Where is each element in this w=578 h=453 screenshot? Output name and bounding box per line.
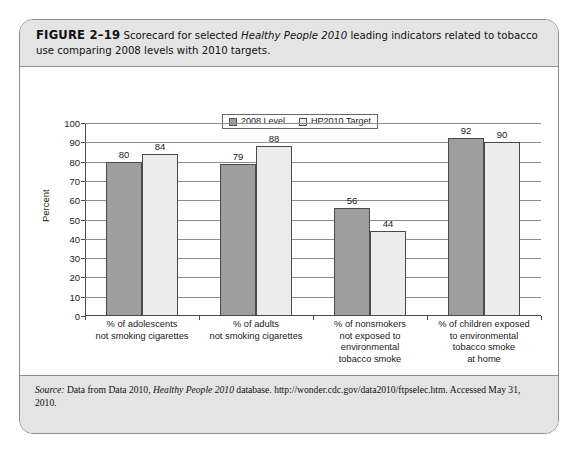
bar-value-label: 56 [334, 195, 370, 206]
bar-value-label: 44 [370, 218, 406, 229]
y-tick-label: 60 [36, 195, 80, 206]
figure-number: FIGURE 2–19 [36, 28, 120, 42]
bar-1-2 [370, 231, 406, 316]
category-label-line: not smoking cigarettes [199, 331, 313, 343]
y-tick-label: 10 [36, 291, 80, 302]
bar-1-0 [142, 154, 178, 316]
category-label-2: % of nonsmokersnot exposed toenvironment… [313, 319, 427, 365]
category-tick [541, 316, 542, 320]
bar-value-label: 80 [106, 149, 142, 160]
figure-caption: FIGURE 2–19 Scorecard for selected Healt… [36, 28, 542, 58]
figure-source: Source: Data from Data 2010, Healthy Peo… [35, 383, 543, 409]
category-label-line: not exposed to [313, 331, 427, 343]
category-label-line: not smoking cigarettes [85, 331, 199, 343]
bars-layer: 8079569284884490 [85, 123, 541, 316]
bar-0-0 [106, 162, 142, 316]
y-tick-label: 80 [36, 156, 80, 167]
source-part1: Data from Data 2010, [64, 384, 152, 395]
y-tick-label: 70 [36, 175, 80, 186]
category-label-line: tobacco smoke [313, 354, 427, 366]
category-label-line: % of children exposed [427, 319, 541, 331]
figure-caption-band: FIGURE 2–19 Scorecard for selected Healt… [20, 20, 558, 67]
y-tick-label: 90 [36, 137, 80, 148]
category-label-line: % of adolescents [85, 319, 199, 331]
category-label-line: % of nonsmokers [313, 319, 427, 331]
bar-0-1 [220, 164, 256, 316]
category-label-line: environmental [313, 342, 427, 354]
category-label-1: % of adultsnot smoking cigarettes [199, 319, 313, 342]
bar-value-label: 92 [448, 125, 484, 136]
y-tick-label: 0 [36, 311, 80, 322]
category-labels: % of adolescentsnot smoking cigarettes% … [85, 319, 541, 371]
bar-value-label: 84 [142, 141, 178, 152]
y-tick-label: 50 [36, 214, 80, 225]
figure-source-band: Source: Data from Data 2010, Healthy Peo… [20, 375, 558, 433]
category-label-line: to environmental [427, 331, 541, 343]
category-label-3: % of children exposedto environmentaltob… [427, 319, 541, 365]
category-label-line: tobacco smoke [427, 342, 541, 354]
bar-value-label: 90 [484, 129, 520, 140]
category-label-line: at home [427, 354, 541, 366]
bar-1-3 [484, 142, 520, 316]
y-tick-label: 40 [36, 233, 80, 244]
bar-value-label: 79 [220, 151, 256, 162]
y-tick-label: 30 [36, 253, 80, 264]
figure-caption-part1: Scorecard for selected [124, 30, 242, 41]
chart-region: 2008 LevelHP2010 Target Percent 01020304… [20, 67, 558, 375]
source-italic: Healthy People 2010 [153, 384, 234, 395]
source-label: Source: [35, 384, 64, 395]
category-label-line: % of adults [199, 319, 313, 331]
bar-0-2 [334, 208, 370, 316]
bar-1-1 [256, 146, 292, 316]
figure-caption-italic: Healthy People 2010 [241, 30, 347, 41]
category-label-0: % of adolescentsnot smoking cigarettes [85, 319, 199, 342]
bar-value-label: 88 [256, 133, 292, 144]
y-tick-label: 100 [36, 118, 80, 129]
figure-card: FIGURE 2–19 Scorecard for selected Healt… [19, 19, 559, 434]
bar-0-3 [448, 138, 484, 316]
plot-area: 0102030405060708090100 8079569284884490 [85, 123, 541, 316]
y-tick-label: 20 [36, 272, 80, 283]
